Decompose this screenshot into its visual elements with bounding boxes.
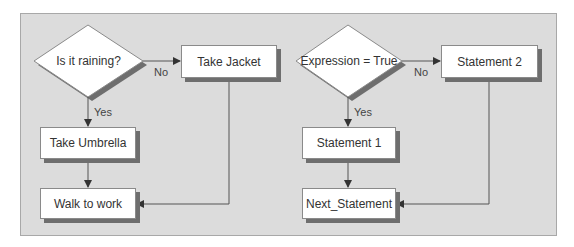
take-jacket-box: Take Jacket	[181, 45, 277, 78]
walk-to-work-box: Walk to work	[40, 188, 136, 219]
take-umbrella-box: Take Umbrella	[40, 127, 136, 159]
statement-1-box: Statement 1	[302, 127, 396, 159]
decision-label-1: Is it raining?	[34, 54, 143, 68]
stmt2-to-next-arrow	[397, 78, 489, 204]
jacket-to-walk-arrow	[137, 78, 229, 204]
no-label-2: No	[414, 66, 428, 78]
yes-label-2: Yes	[354, 106, 372, 118]
yes-label-1: Yes	[94, 106, 112, 118]
statement-2-box: Statement 2	[441, 45, 538, 78]
no-label-1: No	[154, 66, 168, 78]
next-statement-box: Next_Statement	[302, 188, 396, 219]
decision-label-2: Expression = True	[296, 54, 402, 68]
